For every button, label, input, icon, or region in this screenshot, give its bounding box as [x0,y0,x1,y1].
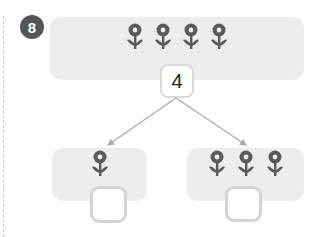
split-arrows [0,0,320,237]
flower-icon [235,149,257,177]
part-flowers-left [52,149,147,177]
whole-number: 4 [171,70,182,93]
whole-number-box: 4 [160,64,194,98]
flower-icon [264,149,286,177]
part-flowers-right [187,149,304,177]
flower-icon [89,149,111,177]
answer-box-right[interactable] [225,186,262,222]
answer-box-left[interactable] [90,186,127,223]
flower-icon [206,149,228,177]
